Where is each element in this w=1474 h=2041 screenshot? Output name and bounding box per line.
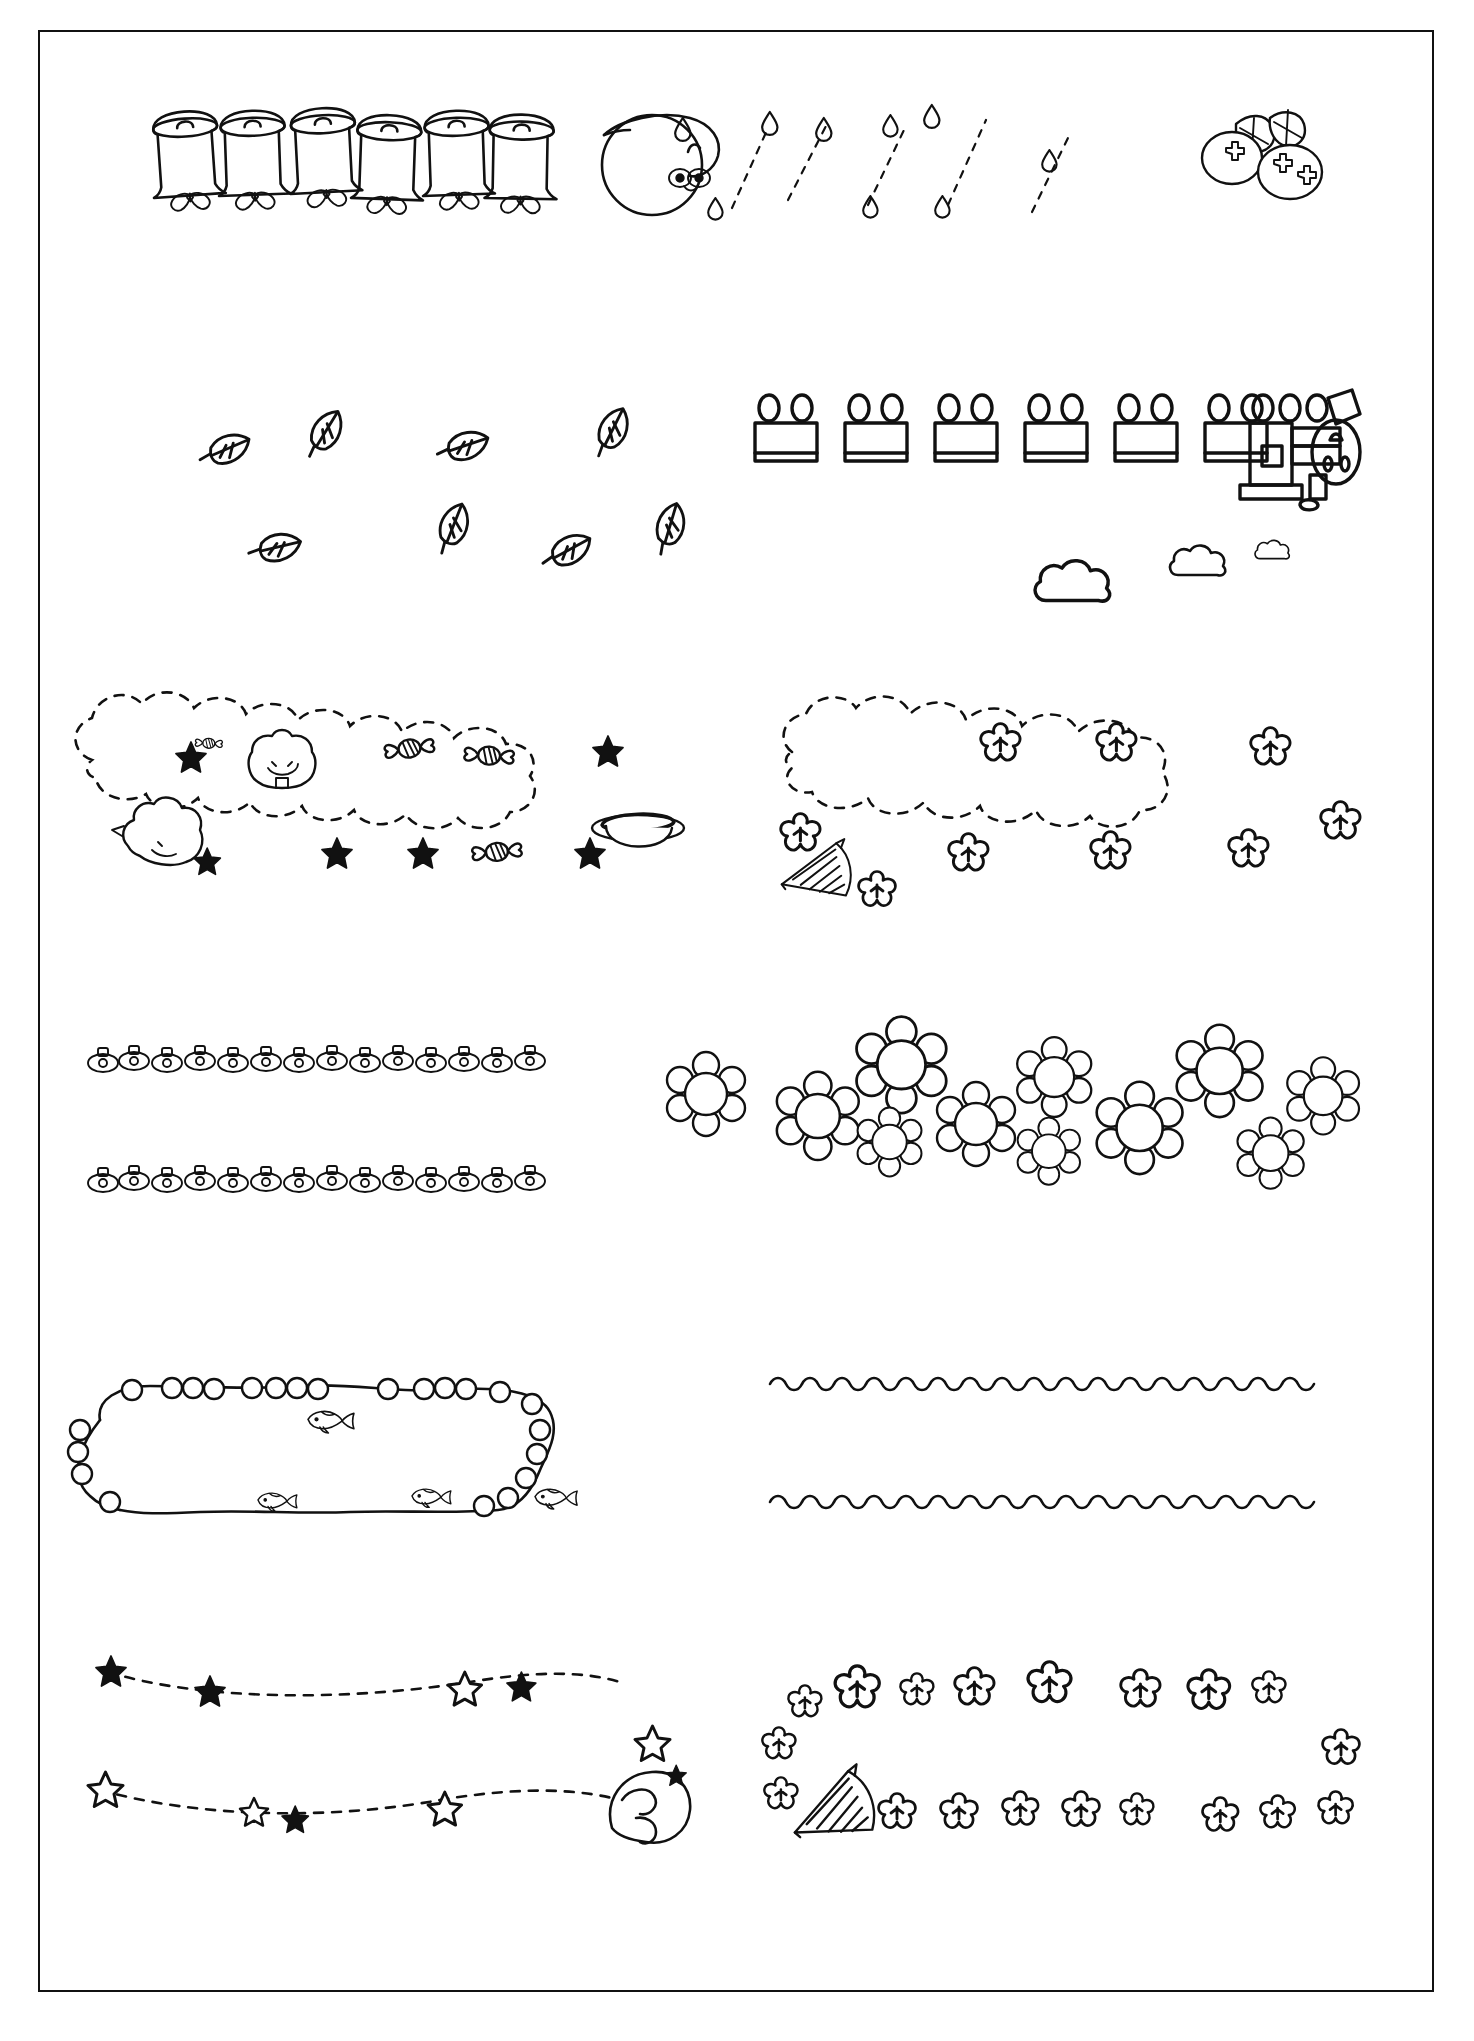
train-carriage — [1205, 395, 1267, 461]
bubble-bead — [498, 1488, 518, 1508]
star-icon — [88, 1772, 123, 1807]
star-icon — [282, 1806, 308, 1832]
blossom-icon — [900, 1673, 933, 1704]
train-carriage — [935, 395, 997, 461]
bubble-bead — [266, 1378, 286, 1398]
fish-icon — [535, 1489, 577, 1509]
cat-icon — [112, 798, 202, 865]
cherry-blossom-fan-border — [762, 1662, 1359, 1838]
blossom-icon — [879, 1794, 916, 1828]
blossom-icon — [949, 834, 988, 870]
bear-face-icon — [249, 730, 316, 788]
blossom-icon — [1260, 1795, 1294, 1827]
smoke-cloud — [1035, 561, 1109, 601]
star-icon — [593, 736, 623, 766]
snail-rain-border — [602, 105, 1322, 220]
blossom-icon — [1251, 728, 1290, 764]
fish-icon — [258, 1493, 297, 1511]
bubble-bead — [435, 1378, 455, 1398]
bells-with-bows-border — [148, 106, 558, 214]
blossom-icon — [1121, 1670, 1160, 1706]
fish-icon — [412, 1489, 451, 1507]
fish-icon — [308, 1411, 354, 1433]
bubble-bead — [183, 1378, 203, 1398]
blossom-icon — [1203, 1797, 1239, 1830]
hat-icon — [592, 814, 684, 846]
bubble-bead — [162, 1378, 182, 1398]
train-carriage — [755, 395, 817, 461]
star-icon — [176, 742, 206, 772]
wave-line — [770, 1378, 1314, 1390]
wrapped-candy-icon — [195, 738, 222, 749]
bubble-bead — [68, 1442, 88, 1462]
raindrop-group — [675, 105, 1068, 220]
bubble-bead — [527, 1444, 547, 1464]
bubble-bead — [72, 1464, 92, 1484]
handbag-row-bottom — [88, 1166, 545, 1192]
blossom-icon — [1120, 1793, 1153, 1824]
star-icon — [240, 1798, 268, 1826]
blossom-icon — [955, 1668, 994, 1704]
bubble-bead — [242, 1378, 262, 1398]
blossom-icon — [762, 1727, 795, 1758]
wrapped-candy-icon — [464, 745, 514, 766]
blossom-icon — [941, 1794, 978, 1828]
blossom-icon — [781, 814, 820, 850]
bubble-bead — [287, 1378, 307, 1398]
wrapped-candy-icon — [384, 736, 435, 761]
blossom-cloud-frame — [781, 697, 1360, 906]
bubble-bead — [70, 1420, 90, 1440]
bubble-bead — [378, 1379, 398, 1399]
bubble-bead — [516, 1468, 536, 1488]
star-icon — [96, 1656, 126, 1686]
blossom-icon — [1229, 830, 1268, 866]
bubble-bead — [474, 1496, 494, 1516]
blossom-icon — [1323, 1730, 1360, 1764]
bubble-bead — [204, 1379, 224, 1399]
bubble-bead — [308, 1379, 328, 1399]
train-carriage — [1115, 395, 1177, 461]
locomotive-icon — [1240, 390, 1360, 510]
bubble-bead — [490, 1382, 510, 1402]
wrapped-candy-icon — [472, 841, 523, 863]
flower-cluster-border — [667, 1017, 1359, 1189]
blossom-icon — [981, 724, 1020, 760]
folding-fan-icon — [790, 1763, 875, 1837]
train-carriage — [1025, 395, 1087, 461]
star-icon — [575, 838, 605, 868]
handbag-chain-border — [88, 1046, 545, 1192]
smoke-cloud — [1170, 546, 1225, 576]
berry-cluster-icon — [1202, 110, 1322, 199]
bubble-chain-fish-frame — [68, 1378, 577, 1516]
train-carriage — [845, 395, 907, 461]
candy-cloud-frame — [76, 692, 685, 874]
bubble-bead — [530, 1420, 550, 1440]
star-icon — [195, 1676, 225, 1706]
star-icon — [322, 838, 352, 868]
blossom-icon — [1252, 1671, 1285, 1702]
blossom-icon — [859, 872, 896, 906]
blossom-icon — [1003, 1791, 1039, 1824]
bubble-bead — [100, 1492, 120, 1512]
bubble-bead — [456, 1379, 476, 1399]
wave-line — [770, 1496, 1314, 1508]
star-icon — [448, 1672, 482, 1705]
train-and-clouds-border — [755, 390, 1360, 601]
star-icon — [635, 1726, 670, 1761]
bubble-bead — [522, 1394, 542, 1414]
clipart-sheet — [0, 0, 1474, 2041]
falling-leaves-border — [200, 408, 695, 573]
blossom-icon — [1028, 1662, 1071, 1702]
blossom-icon — [1318, 1791, 1352, 1823]
bubble-bead — [414, 1379, 434, 1399]
wave-lines-divider — [770, 1378, 1314, 1508]
blossom-icon — [1063, 1792, 1100, 1826]
star-icon — [408, 838, 438, 868]
stars-and-moon-border — [88, 1656, 690, 1843]
blossom-icon — [764, 1777, 797, 1808]
blossom-icon — [835, 1666, 879, 1707]
bubble-bead — [122, 1380, 142, 1400]
blossom-icon — [1321, 802, 1360, 838]
star-icon — [507, 1672, 536, 1701]
blossom-icon — [1188, 1670, 1230, 1709]
